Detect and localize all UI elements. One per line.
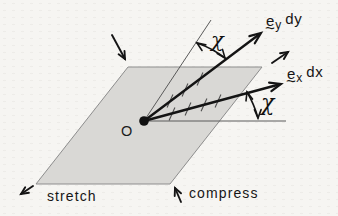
stretch-arrow-icon xyxy=(21,186,33,194)
ey-subscript: y xyxy=(275,19,281,31)
chi-label-right: χ xyxy=(261,92,274,114)
origin-label: O xyxy=(121,124,132,139)
figure-linework xyxy=(0,0,338,216)
compress-arrow-icon xyxy=(175,188,181,202)
ey-dy-label: e~ y dy xyxy=(266,13,302,31)
origin-dot xyxy=(139,116,149,126)
ey-under-tilde: ~ xyxy=(265,20,275,37)
ey-symbol: e~ xyxy=(266,13,274,28)
stretch-label: stretch xyxy=(47,189,97,203)
shear-angle-arc-right xyxy=(246,92,261,118)
shear-deformation-figure: O χ χ e~ y dy e~ x dx stretch compress xyxy=(0,0,338,216)
chi-label-top: χ xyxy=(211,30,224,51)
ex-under-tilde: ~ xyxy=(286,73,296,90)
compress-label: compress xyxy=(189,186,258,200)
shear-direction-arrow-top-icon xyxy=(112,35,125,59)
ex-differential: dx xyxy=(306,64,323,79)
shear-plane xyxy=(36,67,262,184)
ex-subscript: x xyxy=(296,72,302,84)
ey-differential: dy xyxy=(285,11,302,26)
shear-direction-arrow-right-icon xyxy=(272,52,288,63)
ex-symbol: e~ xyxy=(287,66,295,81)
ex-dx-label: e~ x dx xyxy=(287,66,323,84)
